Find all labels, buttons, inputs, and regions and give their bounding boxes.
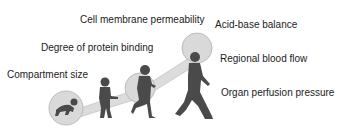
- growth-diagram: Cell membrane permeability Degree of pro…: [0, 0, 337, 128]
- toddler-icon: [99, 78, 118, 119]
- label-organ-perfusion-pressure: Organ perfusion pressure: [221, 87, 334, 99]
- label-compartment-size: Compartment size: [7, 69, 88, 81]
- label-acid-base-balance: Acid-base balance: [215, 19, 297, 31]
- label-degree-of-protein-binding: Degree of protein binding: [41, 42, 153, 54]
- label-regional-blood-flow: Regional blood flow: [220, 53, 307, 65]
- label-cell-membrane-permeability: Cell membrane permeability: [80, 14, 205, 26]
